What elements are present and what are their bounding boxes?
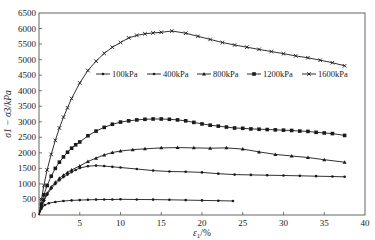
legend-label: 1600kPa [318,69,348,79]
y-tick-label: 5500 [18,39,37,49]
x-tick-label: 25 [238,218,248,228]
y-tick-label: 1500 [18,163,37,173]
x-tick-label: 30 [279,218,289,228]
y-tick-label: 3000 [18,117,37,127]
y-tick-label: 3500 [18,101,37,111]
legend-label: 1200kPa [263,69,293,79]
y-tick-label: 1000 [18,179,37,189]
y-tick-label: 2000 [18,148,37,158]
y-tick-label: 0 [32,210,37,220]
x-tick-label: 40 [361,218,371,228]
x-tick-label: 15 [157,218,167,228]
plot-area [39,13,365,215]
stress-strain-chart: 0500100015002000250030003500400045005000… [0,0,375,240]
legend-label: 800kPa [213,69,239,79]
legend-label: 100kPa [112,69,138,79]
legend-label: 400kPa [163,69,189,79]
y-tick-label: 2500 [18,132,37,142]
y-tick-label: 6000 [18,24,37,34]
y-tick-label: 4000 [18,86,37,96]
y-tick-label: 6500 [18,8,37,18]
x-tick-label: 35 [320,218,330,228]
y-tick-label: 500 [23,194,37,204]
y-tick-label: 5000 [18,55,37,65]
x-tick-label: 10 [116,218,126,228]
x-axis-label: ε1/% [193,228,211,240]
x-tick-label: 5 [78,218,83,228]
y-tick-label: 4500 [18,70,37,80]
y-axis-label: σ1 − σ3/kPa [3,90,13,138]
x-tick-label: 20 [198,218,208,228]
